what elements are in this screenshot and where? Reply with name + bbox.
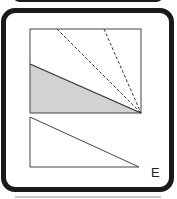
figure-label: E — [151, 166, 160, 180]
right-triangle — [30, 117, 139, 167]
next-panel-edge — [15, 196, 161, 198]
